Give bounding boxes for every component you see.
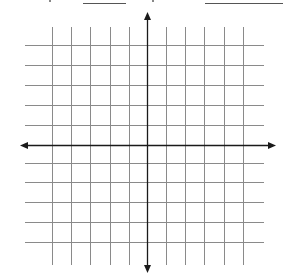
arrow-down-icon [144,265,151,273]
horizontal-grid-lines [25,46,264,243]
arrow-right-icon [268,142,276,149]
arrow-left-icon [20,142,28,149]
axes [20,12,276,273]
coordinate-plane [0,0,290,276]
arrow-up-icon [144,12,151,20]
